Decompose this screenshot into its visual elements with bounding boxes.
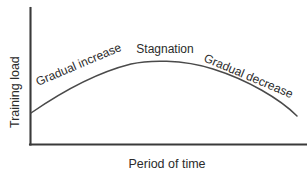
training-load-diagram: Training load Period of time Gradual inc…	[0, 0, 307, 176]
annotation-gradual-decrease: Gradual decrease	[202, 51, 296, 101]
y-axis-label: Training load	[8, 56, 22, 128]
x-axis-label: Period of time	[128, 157, 205, 171]
annotation-stagnation: Stagnation	[136, 42, 193, 56]
annotation-gradual-increase: Gradual increase	[34, 40, 124, 89]
